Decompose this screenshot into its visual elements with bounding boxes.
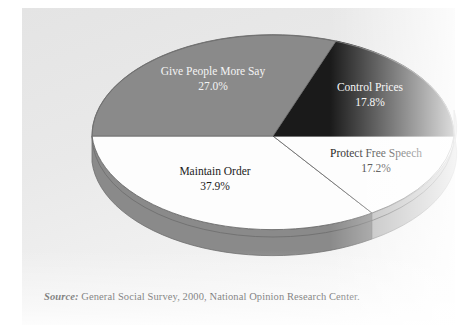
slice-label-value: 17.8% xyxy=(308,95,432,110)
figure-container: Give People More Say 27.0% Control Price… xyxy=(0,0,476,333)
slice-label-name: Protect Free Speech xyxy=(300,146,452,161)
slice-label-name: Give People More Say xyxy=(128,64,298,79)
slice-label-control-prices: Control Prices 17.8% xyxy=(308,80,432,110)
source-note: Source: General Social Survey, 2000, Nat… xyxy=(44,291,360,302)
slice-label-value: 27.0% xyxy=(128,79,298,94)
slice-label-name: Control Prices xyxy=(308,80,432,95)
slice-label-maintain-order: Maintain Order 37.9% xyxy=(140,164,290,194)
slice-label-value: 37.9% xyxy=(140,179,290,194)
source-note-text: General Social Survey, 2000, National Op… xyxy=(79,291,360,302)
slice-label-give-people-more-say: Give People More Say 27.0% xyxy=(128,64,298,94)
slice-label-name: Maintain Order xyxy=(140,164,290,179)
slice-label-value: 17.2% xyxy=(300,161,452,176)
source-note-prefix: Source: xyxy=(44,291,79,302)
slice-label-protect-free-speech: Protect Free Speech 17.2% xyxy=(300,146,452,176)
